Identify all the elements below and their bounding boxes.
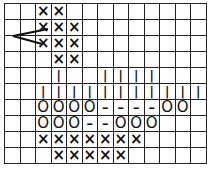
empty-cell	[145, 20, 161, 36]
empty-cell	[21, 84, 37, 100]
empty-cell	[98, 20, 114, 36]
empty-cell	[191, 52, 207, 68]
empty-cell	[21, 100, 37, 116]
empty-cell	[5, 132, 21, 148]
empty-cell	[176, 52, 192, 68]
bar-symbol-cell: |	[129, 68, 145, 84]
empty-cell	[176, 68, 192, 84]
bar-symbol-cell: |	[191, 84, 207, 100]
empty-cell	[129, 4, 145, 20]
empty-cell	[191, 68, 207, 84]
empty-cell	[67, 68, 83, 84]
empty-cell	[176, 36, 192, 52]
dash-symbol-cell: –	[98, 100, 114, 116]
empty-cell	[191, 20, 207, 36]
empty-cell	[98, 52, 114, 68]
empty-cell	[83, 36, 99, 52]
empty-cell	[21, 36, 37, 52]
cross-symbol-cell: ×	[67, 52, 83, 68]
bar-symbol-cell: |	[52, 68, 68, 84]
cross-symbol-cell: ×	[129, 132, 145, 148]
empty-cell	[129, 52, 145, 68]
stitch-grid: ××××××××××||||||||||||||||OOOO––––OOOOO–…	[4, 3, 207, 164]
empty-cell	[176, 20, 192, 36]
empty-cell	[5, 4, 21, 20]
empty-cell	[21, 148, 37, 164]
empty-cell	[160, 148, 176, 164]
empty-cell	[160, 36, 176, 52]
cross-symbol-cell: ×	[114, 148, 130, 164]
empty-cell	[160, 4, 176, 20]
bar-symbol-cell: |	[98, 84, 114, 100]
empty-cell	[114, 52, 130, 68]
empty-cell	[5, 100, 21, 116]
empty-cell	[36, 52, 52, 68]
bar-symbol-cell: |	[114, 84, 130, 100]
empty-cell	[114, 36, 130, 52]
empty-cell	[160, 132, 176, 148]
bar-symbol-cell: |	[145, 84, 161, 100]
empty-cell	[160, 68, 176, 84]
circle-symbol-cell: O	[160, 100, 176, 116]
empty-cell	[21, 68, 37, 84]
empty-cell	[160, 52, 176, 68]
empty-cell	[145, 148, 161, 164]
empty-cell	[5, 116, 21, 132]
empty-cell	[129, 148, 145, 164]
bar-symbol-cell: |	[145, 68, 161, 84]
empty-cell	[160, 20, 176, 36]
cross-symbol-cell: ×	[83, 148, 99, 164]
empty-cell	[191, 100, 207, 116]
empty-cell	[83, 4, 99, 20]
empty-cell	[145, 4, 161, 20]
empty-cell	[145, 52, 161, 68]
bar-symbol-cell: |	[98, 68, 114, 84]
empty-cell	[145, 132, 161, 148]
circle-symbol-cell: O	[83, 100, 99, 116]
cross-symbol-cell: ×	[36, 36, 52, 52]
empty-cell	[129, 20, 145, 36]
bar-symbol-cell: |	[129, 84, 145, 100]
empty-cell	[21, 4, 37, 20]
empty-cell	[191, 148, 207, 164]
empty-cell	[5, 84, 21, 100]
empty-cell	[176, 4, 192, 20]
empty-cell	[145, 36, 161, 52]
empty-cell	[160, 116, 176, 132]
circle-symbol-cell: O	[176, 100, 192, 116]
empty-cell	[5, 36, 21, 52]
empty-cell	[191, 4, 207, 20]
cross-symbol-cell: ×	[67, 148, 83, 164]
empty-cell	[176, 116, 192, 132]
empty-cell	[36, 68, 52, 84]
cross-symbol-cell: ×	[52, 52, 68, 68]
empty-cell	[176, 148, 192, 164]
empty-cell	[114, 20, 130, 36]
empty-cell	[5, 68, 21, 84]
empty-cell	[98, 36, 114, 52]
empty-cell	[21, 116, 37, 132]
cross-symbol-cell: ×	[52, 148, 68, 164]
empty-cell	[191, 132, 207, 148]
empty-cell	[83, 52, 99, 68]
empty-cell	[21, 132, 37, 148]
bar-symbol-cell: |	[114, 68, 130, 84]
empty-cell	[5, 52, 21, 68]
empty-cell	[5, 148, 21, 164]
empty-cell	[191, 36, 207, 52]
empty-cell	[5, 20, 21, 36]
empty-cell	[129, 36, 145, 52]
empty-cell	[191, 116, 207, 132]
empty-cell	[21, 20, 37, 36]
empty-cell	[83, 20, 99, 36]
empty-cell	[83, 68, 99, 84]
empty-cell	[36, 148, 52, 164]
cross-symbol-cell: ×	[36, 132, 52, 148]
cross-symbol-cell: ×	[98, 148, 114, 164]
empty-cell	[21, 52, 37, 68]
empty-cell	[114, 4, 130, 20]
empty-cell	[176, 132, 192, 148]
empty-cell	[98, 4, 114, 20]
circle-symbol-cell: O	[145, 116, 161, 132]
